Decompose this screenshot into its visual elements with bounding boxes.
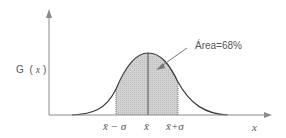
tick-minus-sigma-rest: − σ <box>108 120 127 132</box>
tick-mean: x̄ <box>143 120 149 132</box>
area-annotation: Área=68% <box>195 39 242 51</box>
x-axis-label: x <box>251 121 257 133</box>
tick-plus-sigma-rest: +σ <box>171 120 184 132</box>
tick-plus-sigma: x̄+σ <box>165 120 184 132</box>
normal-distribution-diagram: Área=68% G ( x ) x x̄ − σ x̄ x̄+σ <box>0 0 286 138</box>
y-axis-arrow-icon <box>46 9 52 18</box>
tick-mean-main: x̄ <box>143 120 149 132</box>
y-axis-label: G ( x ) <box>16 64 46 75</box>
paren-close: ) <box>43 64 46 75</box>
x-axis-arrow-icon <box>264 112 272 118</box>
shaded-area-68 <box>116 53 178 115</box>
y-axis-label-var: x <box>35 64 41 75</box>
tick-minus-sigma: x̄ − σ <box>102 120 127 132</box>
annotation-leader <box>160 48 187 67</box>
y-axis-label-func: G <box>16 64 24 75</box>
paren-open: ( <box>30 64 34 75</box>
